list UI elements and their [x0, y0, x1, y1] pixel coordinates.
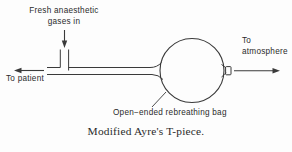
open-end-rectangle	[222, 65, 232, 78]
label-to-patient: To patient	[6, 74, 44, 85]
figure-caption: Modified Ayre's T-piece.	[0, 125, 292, 137]
label-fresh-gas-line1: Fresh anaesthetic	[18, 6, 110, 17]
label-fresh-gas: Fresh anaesthetic gases in	[18, 6, 110, 27]
label-to-atmosphere-line1: To	[242, 36, 292, 47]
label-to-atmosphere-line2: atmosphere	[242, 47, 292, 58]
arrow-right-icon	[234, 68, 280, 74]
fresh-gas-inlet-tube	[60, 50, 68, 71]
label-fresh-gas-line2: gases in	[18, 17, 110, 28]
arrow-down-icon	[62, 30, 67, 48]
label-rebreathing-bag: Open−ended rebreathing bag	[113, 108, 227, 119]
arrow-left-icon	[14, 68, 44, 74]
modified-ayres-t-piece-figure: Fresh anaesthetic gases in To patient To…	[0, 0, 292, 152]
label-to-atmosphere: To atmosphere	[242, 36, 292, 57]
leader-line-icon	[152, 92, 166, 107]
patient-limb-tube	[47, 63, 163, 80]
circle-bag	[160, 39, 224, 103]
